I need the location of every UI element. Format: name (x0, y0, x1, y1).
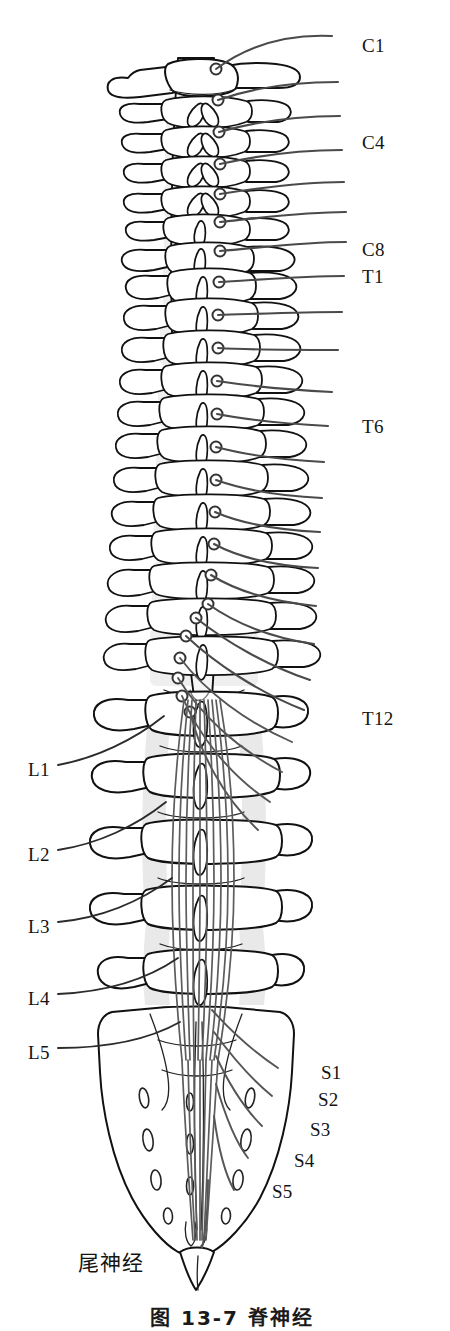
cervical-vertebrae (108, 59, 300, 278)
label-l5: L5 (28, 1043, 50, 1062)
label-c8: C8 (362, 240, 385, 259)
label-l4: L4 (28, 989, 50, 1008)
label-s2: S2 (318, 1090, 339, 1109)
sacrum (98, 1007, 294, 1291)
label-s4: S4 (294, 1151, 315, 1170)
label-coccygeal-nerve: 尾神经 (78, 1253, 144, 1274)
figure-caption: 图 13-7 脊神经 (150, 1302, 314, 1331)
label-c1: C1 (362, 36, 385, 55)
label-t6: T6 (362, 417, 384, 436)
label-l3: L3 (28, 917, 50, 936)
label-t1: T1 (362, 267, 384, 286)
label-t12: T12 (362, 709, 394, 728)
lumbar-vertebrae (90, 692, 312, 1006)
label-s5: S5 (272, 1182, 293, 1201)
label-c4: C4 (362, 133, 385, 152)
label-l2: L2 (28, 845, 50, 864)
label-l1: L1 (28, 760, 50, 779)
label-s1: S1 (321, 1063, 342, 1082)
label-s3: S3 (310, 1120, 331, 1139)
